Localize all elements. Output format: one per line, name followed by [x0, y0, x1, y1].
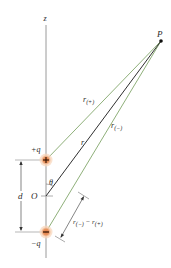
origin-label: O — [31, 191, 38, 201]
r-difference-label: r(−) − r(+) — [73, 218, 103, 228]
z-axis-label: z — [43, 14, 48, 23]
negative-charge — [40, 226, 53, 239]
d-label: d — [18, 191, 23, 201]
point-p-label: P — [156, 29, 163, 39]
r-minus-label: r(−) — [111, 121, 122, 132]
r-plus-label: r(+) — [83, 95, 94, 106]
diff-ext-bottom — [55, 236, 65, 242]
diff-arrow-bottom — [61, 234, 65, 239]
dipole-diagram: z θ P d O +q −q r(+) r — [0, 0, 171, 268]
theta-label: θ — [49, 178, 53, 187]
positive-charge-label: +q — [31, 145, 40, 154]
r-plus-line — [46, 41, 161, 160]
r-minus-line — [46, 41, 161, 232]
d-arrow-down — [19, 227, 22, 231]
diff-arrow-top — [81, 196, 85, 201]
d-arrow-up — [19, 161, 22, 165]
positive-charge — [40, 154, 53, 167]
r-line — [46, 41, 161, 196]
point-p — [159, 39, 163, 43]
r-label: r — [81, 138, 85, 147]
negative-charge-label: −q — [31, 239, 40, 248]
diff-dimension-line — [61, 197, 84, 237]
